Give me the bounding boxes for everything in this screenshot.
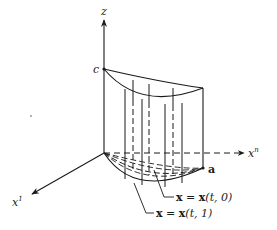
xn-axis-label: xn <box>248 146 259 160</box>
intermediate-curve-1 <box>104 153 203 176</box>
top-lower-curve <box>104 69 203 97</box>
x1-axis <box>32 153 104 194</box>
z-axis-label: z <box>100 5 107 18</box>
back-verticals <box>133 80 173 105</box>
curve-t1 <box>104 153 203 181</box>
label-curve-t1: x = x(t, 1) <box>156 207 212 220</box>
point-a-label: a <box>208 163 215 176</box>
point-a <box>201 166 204 169</box>
top-upper-curve <box>104 69 203 88</box>
surface-diagram: z xn x1 c a x = <box>0 0 277 230</box>
label-curve-t0: x = x(t, 0) <box>176 191 232 204</box>
x1-axis-label: x1 <box>12 195 23 209</box>
intermediate-curve-2 <box>104 153 203 170</box>
leader-t0 <box>154 170 174 197</box>
leader-t1 <box>134 183 154 213</box>
intermediate-curve-3 <box>104 153 203 168</box>
point-c-label: c <box>93 63 99 76</box>
stray-dot <box>30 115 32 117</box>
curve-t0 <box>104 153 203 173</box>
